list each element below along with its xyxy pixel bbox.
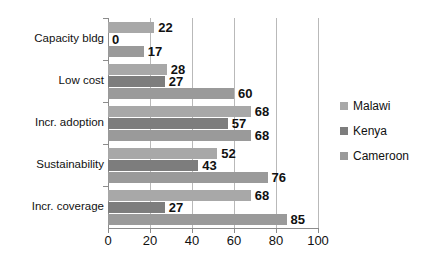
y-axis-tick xyxy=(103,144,108,145)
bar-value-label: 76 xyxy=(272,171,286,184)
bar-malawi[interactable] xyxy=(108,148,217,159)
x-axis-tick-label: 60 xyxy=(227,234,241,247)
y-axis-category-label: Low cost xyxy=(0,75,104,87)
bar-cameroon[interactable] xyxy=(108,130,251,141)
bar-value-label: 68 xyxy=(255,105,269,118)
y-axis-category-label: Sustainability xyxy=(0,159,104,171)
bar-cameroon[interactable] xyxy=(108,214,287,225)
x-axis-tick-label: 20 xyxy=(143,234,157,247)
bar-value-label: 22 xyxy=(158,21,172,34)
bar-value-label: 85 xyxy=(291,213,305,226)
bar-row: 76 xyxy=(108,172,318,183)
x-axis-tick-label: 100 xyxy=(307,234,329,247)
bar-value-label: 57 xyxy=(232,117,246,130)
x-axis-tick-label: 80 xyxy=(269,234,283,247)
plot-area: 22017282760685768524376682785 xyxy=(108,18,318,228)
legend-swatch-icon xyxy=(340,152,348,160)
x-axis-tick-label: 0 xyxy=(104,234,111,247)
y-axis-labels: Capacity bldgLow costIncr. adoptionSusta… xyxy=(0,18,104,228)
chart-legend: MalawiKenyaCameroon xyxy=(340,93,445,168)
legend-label: Cameroon xyxy=(353,150,409,162)
bar-value-label: 0 xyxy=(112,33,119,46)
bar-kenya[interactable] xyxy=(108,76,165,87)
bar-row: 43 xyxy=(108,160,318,171)
y-axis-category-label: Incr. adoption xyxy=(0,117,104,129)
bar-row: 57 xyxy=(108,118,318,129)
bar-cameroon[interactable] xyxy=(108,88,234,99)
legend-item[interactable]: Kenya xyxy=(340,118,445,143)
bar-kenya[interactable] xyxy=(108,118,228,129)
bar-row: 85 xyxy=(108,214,318,225)
bar-row: 27 xyxy=(108,76,318,87)
x-axis-tick-label: 40 xyxy=(185,234,199,247)
bar-row: 0 xyxy=(108,34,318,45)
legend-label: Kenya xyxy=(353,125,387,137)
bar-value-label: 27 xyxy=(169,75,183,88)
bar-row: 68 xyxy=(108,130,318,141)
bar-group: 682785 xyxy=(108,190,318,225)
legend-swatch-icon xyxy=(340,127,348,135)
bar-cameroon[interactable] xyxy=(108,46,144,57)
y-axis-category-label: Capacity bldg xyxy=(0,33,104,45)
bar-value-label: 68 xyxy=(255,129,269,142)
bar-kenya[interactable] xyxy=(108,202,165,213)
bar-row: 68 xyxy=(108,190,318,201)
bar-value-label: 27 xyxy=(169,201,183,214)
bar-malawi[interactable] xyxy=(108,106,251,117)
bar-chart: Capacity bldgLow costIncr. adoptionSusta… xyxy=(0,0,445,264)
bar-row: 68 xyxy=(108,106,318,117)
legend-label: Malawi xyxy=(353,100,390,112)
bar-row: 17 xyxy=(108,46,318,57)
y-axis-category-label: Incr. coverage xyxy=(0,201,104,213)
x-axis-line xyxy=(108,228,319,229)
gridline xyxy=(318,18,319,228)
y-axis-tick xyxy=(103,60,108,61)
legend-swatch-icon xyxy=(340,102,348,110)
legend-item[interactable]: Cameroon xyxy=(340,143,445,168)
bar-row: 22 xyxy=(108,22,318,33)
bar-group: 685768 xyxy=(108,106,318,141)
bar-value-label: 17 xyxy=(148,45,162,58)
bar-row: 27 xyxy=(108,202,318,213)
bar-kenya[interactable] xyxy=(108,160,198,171)
bar-row: 60 xyxy=(108,88,318,99)
y-axis-tick xyxy=(103,18,108,19)
bar-value-label: 60 xyxy=(238,87,252,100)
bar-group: 524376 xyxy=(108,148,318,183)
y-axis-tick xyxy=(103,186,108,187)
bar-row: 28 xyxy=(108,64,318,75)
bar-value-label: 68 xyxy=(255,189,269,202)
bar-malawi[interactable] xyxy=(108,64,167,75)
bar-cameroon[interactable] xyxy=(108,172,268,183)
bar-value-label: 52 xyxy=(221,147,235,160)
legend-item[interactable]: Malawi xyxy=(340,93,445,118)
x-axis-labels: 020406080100 xyxy=(0,234,445,256)
bar-value-label: 43 xyxy=(202,159,216,172)
y-axis-tick xyxy=(103,102,108,103)
bar-group: 282760 xyxy=(108,64,318,99)
bar-group: 22017 xyxy=(108,22,318,57)
